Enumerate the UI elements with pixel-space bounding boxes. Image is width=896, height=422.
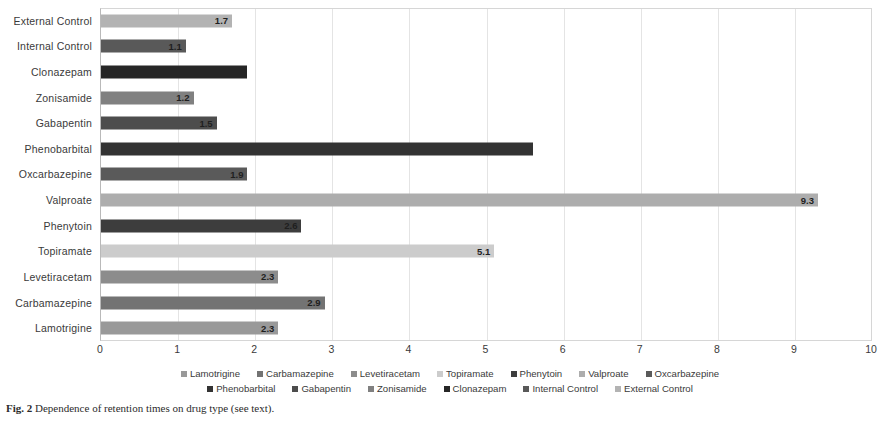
x-axis-tick-label: 8: [714, 343, 720, 355]
legend-swatch-icon: [292, 386, 298, 392]
bar[interactable]: 1.1: [101, 40, 186, 53]
bar-row: Clonazepam: [0, 59, 896, 85]
legend-label: Phenobarbital: [216, 383, 275, 394]
legend-label: Gabapentin: [301, 383, 351, 394]
bar-container: 5.1: [101, 245, 494, 258]
legend-label: Oxcarbazepine: [655, 368, 720, 379]
bar[interactable]: 1.5: [101, 117, 217, 130]
bar-value-label: 9.3: [801, 195, 814, 205]
legend-swatch-icon: [181, 371, 187, 377]
bar-chart-figure: External Control1.7Internal Control1.1Cl…: [0, 0, 896, 422]
x-axis-tick-label: 0: [97, 343, 103, 355]
bar[interactable]: 9.3: [101, 194, 818, 207]
category-label: Gabapentin: [0, 117, 92, 129]
bar[interactable]: [101, 142, 533, 155]
legend-swatch-icon: [444, 386, 450, 392]
legend-label: Levetiracetam: [360, 368, 420, 379]
x-axis-tick-label: 10: [865, 343, 877, 355]
x-axis-tick-label: 6: [560, 343, 566, 355]
bar-row: Topiramate5.1: [0, 239, 896, 265]
legend-swatch-icon: [437, 371, 443, 377]
bar-container: [101, 142, 533, 155]
bar[interactable]: [101, 66, 247, 79]
legend-item[interactable]: Valproate: [579, 368, 628, 379]
bar[interactable]: 1.7: [101, 14, 232, 27]
bar-row: Zonisamide1.2: [0, 85, 896, 111]
legend-swatch-icon: [579, 371, 585, 377]
bar-value-label: 1.2: [176, 93, 189, 103]
legend-label: Valproate: [588, 368, 628, 379]
bar[interactable]: 2.3: [101, 270, 278, 283]
bar-row: Valproate9.3: [0, 187, 896, 213]
legend-item[interactable]: Clonazepam: [444, 383, 507, 394]
bar-container: 2.3: [101, 270, 278, 283]
bar[interactable]: 1.9: [101, 168, 247, 181]
legend-item[interactable]: Carbamazepine: [257, 368, 334, 379]
bar-container: 1.5: [101, 117, 217, 130]
category-label: Carbamazepine: [0, 297, 92, 309]
category-label: Phenytoin: [0, 220, 92, 232]
bar-row: Phenytoin2.6: [0, 213, 896, 239]
legend-row-2: PhenobarbitalGabapentinZonisamideClonaze…: [100, 381, 800, 396]
bar-container: 2.3: [101, 322, 278, 335]
x-axis-tick-label: 7: [637, 343, 643, 355]
legend-item[interactable]: Topiramate: [437, 368, 493, 379]
legend-swatch-icon: [351, 371, 357, 377]
bar[interactable]: 2.3: [101, 322, 278, 335]
x-axis-tick-label: 1: [174, 343, 180, 355]
legend-swatch-icon: [615, 386, 621, 392]
category-label: Levetiracetam: [0, 271, 92, 283]
bar-value-label: 2.6: [284, 221, 297, 231]
legend-item[interactable]: Internal Control: [523, 383, 598, 394]
category-label: Zonisamide: [0, 92, 92, 104]
x-axis-tick-label: 5: [483, 343, 489, 355]
legend-item[interactable]: Lamotrigine: [181, 368, 240, 379]
legend-label: Carbamazepine: [266, 368, 334, 379]
legend-swatch-icon: [511, 371, 517, 377]
x-axis-tick-label: 9: [791, 343, 797, 355]
category-label: Valproate: [0, 194, 92, 206]
legend-swatch-icon: [523, 386, 529, 392]
legend-item[interactable]: Levetiracetam: [351, 368, 420, 379]
bar-value-label: 2.3: [261, 323, 274, 333]
bar-row: Gabapentin1.5: [0, 110, 896, 136]
bar-row: Phenobarbital: [0, 136, 896, 162]
bar[interactable]: 1.2: [101, 91, 194, 104]
bar[interactable]: 5.1: [101, 245, 494, 258]
bar-row: Levetiracetam2.3: [0, 264, 896, 290]
legend-item[interactable]: External Control: [615, 383, 693, 394]
figure-caption: Fig. 2 Dependence of retention times on …: [6, 402, 506, 414]
legend-label: Phenytoin: [520, 368, 563, 379]
legend-item[interactable]: Phenytoin: [511, 368, 563, 379]
bar-value-label: 5.1: [477, 247, 490, 257]
category-label: Topiramate: [0, 245, 92, 257]
legend-item[interactable]: Phenobarbital: [207, 383, 275, 394]
legend-swatch-icon: [207, 386, 213, 392]
legend-label: Clonazepam: [453, 383, 507, 394]
legend-item[interactable]: Gabapentin: [292, 383, 351, 394]
bar-value-label: 1.1: [169, 42, 182, 52]
bar-container: 1.2: [101, 91, 194, 104]
x-axis: 012345678910: [100, 343, 872, 361]
bar-container: 9.3: [101, 194, 818, 207]
bar[interactable]: 2.9: [101, 296, 325, 309]
bar-container: 1.1: [101, 40, 186, 53]
bar[interactable]: 2.6: [101, 219, 301, 232]
bar-value-label: 1.9: [230, 170, 243, 180]
legend-item[interactable]: Zonisamide: [368, 383, 427, 394]
bar-value-label: 1.7: [215, 16, 228, 26]
bar-container: 2.6: [101, 219, 301, 232]
legend-label: External Control: [624, 383, 693, 394]
bar-container: 1.7: [101, 14, 232, 27]
legend-item[interactable]: Oxcarbazepine: [646, 368, 720, 379]
bar-row: Carbamazepine2.9: [0, 290, 896, 316]
legend-row-1: LamotrigineCarbamazepineLevetiracetamTop…: [100, 366, 800, 381]
x-axis-tick-label: 2: [251, 343, 257, 355]
bar-value-label: 1.5: [199, 119, 212, 129]
bar-container: 2.9: [101, 296, 325, 309]
bar-rows: External Control1.7Internal Control1.1Cl…: [0, 8, 896, 341]
x-axis-tick-label: 4: [405, 343, 411, 355]
legend-label: Topiramate: [446, 368, 493, 379]
bar-row: Oxcarbazepine1.9: [0, 162, 896, 188]
category-label: Clonazepam: [0, 66, 92, 78]
